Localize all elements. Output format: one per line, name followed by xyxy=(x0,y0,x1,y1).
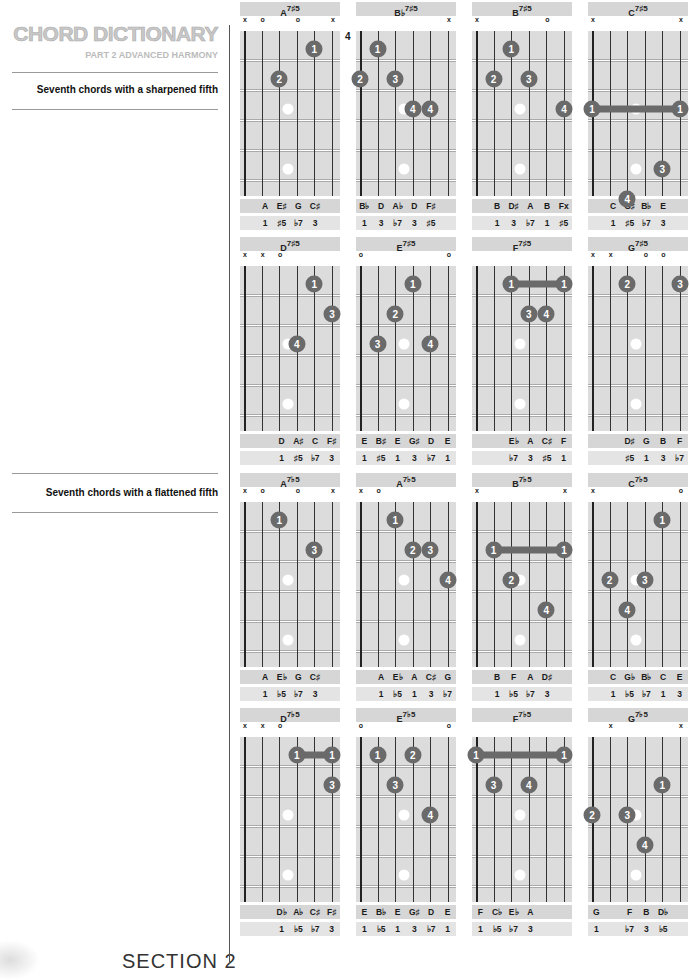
chord-name: B7♭5 xyxy=(472,473,572,487)
note-name: E xyxy=(389,436,406,446)
finger-dot: 2 xyxy=(404,542,421,559)
guitar-string xyxy=(511,737,512,902)
interval: ♭5 xyxy=(389,689,406,699)
fret-inlay-dot xyxy=(283,399,294,410)
fretboard: 1134 xyxy=(472,732,572,902)
fret-wire xyxy=(588,650,688,653)
fret-inlay-dot xyxy=(631,164,642,175)
guitar-string xyxy=(529,31,530,196)
muted-string-icon: x xyxy=(591,251,595,258)
fret-wire xyxy=(472,765,572,768)
finger-dot: 3 xyxy=(619,807,636,824)
interval: ♭7 xyxy=(621,924,638,934)
guitar-string xyxy=(413,502,414,667)
fret-inlay-dot xyxy=(631,870,642,881)
interval: ♭5 xyxy=(489,924,506,934)
interval: 1 xyxy=(373,689,390,699)
guitar-string xyxy=(546,502,547,667)
interval: 1 xyxy=(489,689,506,699)
chord-intervals: 1♯513♭71 xyxy=(356,451,456,465)
fret-inlay-dot xyxy=(399,810,410,821)
chord-intervals: 1♭513♭7 xyxy=(356,687,456,701)
fret-wire xyxy=(240,620,340,623)
note-name: G xyxy=(588,907,605,917)
note-name: B xyxy=(655,436,672,446)
note-name: D♯ xyxy=(621,436,638,446)
note-name: E♭ xyxy=(273,672,290,682)
fretboard: 1234 xyxy=(356,261,456,431)
interval: ♭5 xyxy=(621,689,638,699)
finger-dot: 4 xyxy=(538,602,555,619)
fret-wire xyxy=(356,590,456,593)
fret-wire xyxy=(356,384,456,387)
fret-wire xyxy=(588,119,688,122)
open-string-icon: o xyxy=(296,487,300,494)
guitar-string xyxy=(448,31,449,196)
fret-wire xyxy=(472,59,572,62)
open-string-icon: o xyxy=(376,487,380,494)
interval: 3 xyxy=(373,218,390,228)
interval: ♭5 xyxy=(655,924,672,934)
fret-wire xyxy=(472,294,572,297)
note-name: D♯ xyxy=(539,672,556,682)
note-name: E xyxy=(655,201,672,211)
note-name: F♯ xyxy=(423,201,440,211)
note-name: C♯ xyxy=(307,907,324,917)
finger-dot: 4 xyxy=(422,336,439,353)
fret-wire xyxy=(472,414,572,417)
guitar-string xyxy=(645,31,646,196)
fret-wire xyxy=(356,354,456,357)
fret-wire xyxy=(588,885,688,888)
fret-wire xyxy=(472,795,572,798)
fret-inlay-dot xyxy=(515,104,526,115)
fret-inlay-dot xyxy=(515,339,526,350)
chord-diagram: C7♭5xo1234CG♭B♭CE1♭5♭713 xyxy=(588,473,688,701)
note-name: E♭ xyxy=(505,436,522,446)
muted-string-icon: x xyxy=(609,251,613,258)
chord-intervals: 1♯5♭73 xyxy=(240,451,340,465)
finger-dot: 2 xyxy=(619,276,636,293)
interval: 3 xyxy=(522,924,539,934)
interval: ♭5 xyxy=(290,924,307,934)
note-name: D xyxy=(373,201,390,211)
finger-dot: 1 xyxy=(503,276,520,293)
muted-string-icon: x xyxy=(359,487,363,494)
interval: ♭7 xyxy=(307,453,324,463)
guitar-string xyxy=(395,31,396,196)
chord-intervals: 1♭73♭5 xyxy=(588,922,688,936)
muted-string-icon: x xyxy=(591,16,595,23)
finger-dot: 1 xyxy=(654,512,671,529)
fret-wire xyxy=(472,560,572,563)
finger-dot: 3 xyxy=(520,71,537,88)
interval: ♭7 xyxy=(307,924,324,934)
fret-wire xyxy=(240,89,340,92)
open-string-icon: o xyxy=(545,16,549,23)
guitar-string xyxy=(297,31,298,196)
chord-diagram: B7♯5xo1234BD♯ABFx13♭71♯5 xyxy=(472,2,572,230)
chord-notes: D♯GBF xyxy=(588,434,688,448)
interval: 1 xyxy=(605,218,622,228)
note-name: A xyxy=(522,436,539,446)
fret-wire xyxy=(240,294,340,297)
string-markers: x xyxy=(356,16,456,26)
fret-wire xyxy=(356,59,456,62)
chord-intervals: 1♭5♭73 xyxy=(240,687,340,701)
muted-string-icon: x xyxy=(591,487,595,494)
string-markers: xo xyxy=(356,487,456,497)
fret-wire xyxy=(588,620,688,623)
interval: 1 xyxy=(273,924,290,934)
interval: 3 xyxy=(323,453,340,463)
finger-dot: 3 xyxy=(654,161,671,178)
muted-string-icon: x xyxy=(331,16,335,23)
note-name: A xyxy=(257,672,274,682)
finger-dot: 1 xyxy=(556,276,573,293)
note-name: E xyxy=(671,672,688,682)
fret-wire xyxy=(588,855,688,858)
chord-name: F7♯5 xyxy=(472,237,572,251)
guitar-string xyxy=(332,502,333,667)
fret-wire xyxy=(472,530,572,533)
open-string-icon: o xyxy=(447,251,451,258)
fret-inlay-dot xyxy=(515,635,526,646)
finger-dot: 2 xyxy=(584,807,601,824)
finger-dot: 1 xyxy=(369,41,386,58)
